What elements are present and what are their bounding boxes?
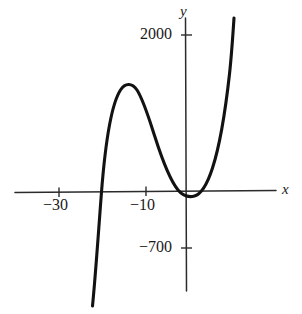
y-axis-line [186, 18, 187, 291]
y-tick-label-2000: 2000 [140, 26, 172, 42]
x-tick-label--10: −10 [130, 197, 155, 213]
plot-background [0, 0, 302, 314]
graph-canvas [0, 0, 302, 314]
x-axis-label: x [282, 182, 289, 197]
y-axis-label: y [180, 4, 187, 19]
y-tick-label--700: −700 [139, 239, 172, 255]
x-tick-label--30: −30 [43, 197, 68, 213]
